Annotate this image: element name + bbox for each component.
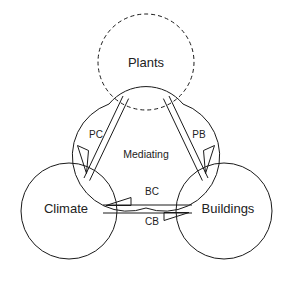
edge-bc-arrowhead [106, 198, 131, 206]
diagram-canvas: PC PB BC CB Plants Climate Buildings Med… [0, 0, 293, 281]
node-label-plants: Plants [128, 55, 165, 70]
relationship-diagram: PC PB BC CB Plants Climate Buildings Med… [0, 0, 293, 281]
edge-pb[interactable] [163, 96, 214, 181]
edge-pb-arrowhead [204, 146, 215, 174]
edge-label-cb: CB [145, 216, 159, 227]
edge-pc-arrowhead [78, 146, 89, 174]
mediating-label: Mediating [123, 148, 169, 160]
edge-label-pb: PB [192, 129, 206, 140]
edge-label-pc: PC [89, 129, 103, 140]
edge-pc[interactable] [78, 96, 129, 181]
edge-label-bc: BC [145, 186, 159, 197]
node-label-buildings: Buildings [202, 201, 255, 216]
node-label-climate: Climate [44, 201, 88, 216]
